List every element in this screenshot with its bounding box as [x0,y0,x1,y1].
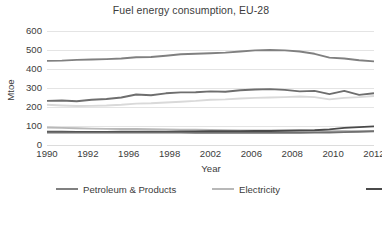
legend-item-label: Electricity [239,184,280,195]
x-tick-label: 1996 [118,148,139,159]
y-tick-label: 400 [26,63,42,74]
y-axis-tick-labels: 0100200300400500600 [26,25,42,150]
x-tick-label: 2010 [322,148,343,159]
legend-item[interactable]: Derived Heat [366,182,382,196]
y-tick-label: 200 [26,101,42,112]
line-chart-plot: 0100200300400500600 19901992199619982002… [0,0,382,180]
legend-item[interactable]: Petroleum & Products [56,182,208,196]
chart-legend: Petroleum & ProductsElectricityDerived H… [56,182,376,196]
chart-title: Fuel energy consumption, EU-28 [0,4,382,16]
y-tick-label: 100 [26,120,42,131]
x-axis-title: Year [201,163,221,174]
y-tick-label: 300 [26,82,42,93]
x-tick-label: 1992 [77,148,98,159]
legend-swatch-icon [212,188,234,190]
x-tick-label: 1998 [159,148,180,159]
y-axis-title: Mtoe [5,79,16,100]
chart-figure: Fuel energy consumption, EU-28 010020030… [0,0,382,227]
legend-swatch-icon [56,188,78,190]
series-line-petroleum-products [47,50,374,61]
series-line-solid-fuels [47,96,374,106]
x-tick-label: 2002 [200,148,221,159]
x-tick-label: 1990 [36,148,57,159]
y-tick-label: 600 [26,25,42,36]
series-lines-group [47,50,374,133]
x-tick-label: 2006 [241,148,262,159]
x-tick-label: 2008 [282,148,303,159]
legend-item[interactable]: Electricity [212,182,362,196]
legend-item-label: Petroleum & Products [83,184,176,195]
x-axis-tick-labels: 199019921996199820022006200820102012 [36,148,382,159]
x-tick-label: 2012 [363,148,382,159]
legend-swatch-icon [366,188,382,190]
y-tick-label: 500 [26,44,42,55]
